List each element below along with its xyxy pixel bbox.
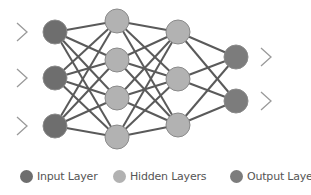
neural-network-diagram	[0, 0, 311, 160]
chevron-right-icon	[17, 23, 27, 41]
hidden-layer-dot-icon	[113, 170, 126, 183]
input-node	[43, 20, 67, 44]
legend-item-hidden: Hidden Layers	[113, 166, 206, 186]
output-node	[224, 89, 248, 113]
legend-label: Output Layer	[247, 170, 311, 183]
output-node	[224, 45, 248, 69]
legend: Input Layer Hidden Layers Output Layer	[0, 166, 311, 186]
legend-label: Hidden Layers	[130, 170, 206, 183]
hidden-node	[166, 113, 190, 137]
input-node	[43, 114, 67, 138]
legend-label: Input Layer	[37, 170, 97, 183]
chevron-right-icon	[17, 117, 27, 135]
input-layer-dot-icon	[20, 170, 33, 183]
hidden-node	[105, 86, 129, 110]
hidden-node	[105, 48, 129, 72]
connections	[55, 21, 236, 137]
legend-item-input: Input Layer	[20, 166, 97, 186]
input-node	[43, 66, 67, 90]
chevron-right-icon	[261, 48, 271, 66]
hidden-node	[166, 20, 190, 44]
hidden-node	[166, 67, 190, 91]
hidden-node	[105, 9, 129, 33]
legend-item-output: Output Layer	[230, 166, 311, 186]
output-layer-dot-icon	[230, 170, 243, 183]
hidden-node	[105, 125, 129, 149]
chevron-right-icon	[261, 92, 271, 110]
chevron-right-icon	[17, 69, 27, 87]
